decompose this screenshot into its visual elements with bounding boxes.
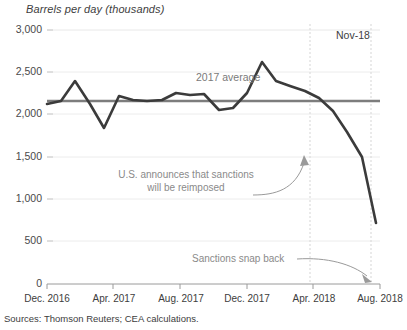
x-tick-label: Apr. 2017 — [82, 293, 146, 304]
y-tick-label: 1,000 — [0, 192, 42, 204]
x-tick-label: Apr. 2018 — [282, 293, 346, 304]
x-tick-label: Dec. 2016 — [15, 293, 79, 304]
annotation-line: will be reimposed — [112, 181, 260, 194]
y-tick-label: 3,000 — [0, 23, 42, 35]
annotation-line: Sanctions snap back — [192, 252, 284, 265]
y-tick-label: 2,000 — [0, 107, 42, 119]
x-tick-label: Aug. 2017 — [149, 293, 213, 304]
x-tick-label: Aug. 2018 — [348, 293, 407, 304]
y-axis-ticks — [47, 30, 53, 241]
marker-label-nov-18: Nov-18 — [336, 29, 370, 41]
marker-lines — [310, 24, 371, 284]
x-tick-label: Dec. 2017 — [215, 293, 279, 304]
annotation-sanctions-announced: U.S. announces that sanctions will be re… — [112, 168, 260, 194]
y-tick-label: 0 — [0, 277, 42, 289]
x-axis-line — [47, 284, 380, 289]
annotation-arrow-snap-back — [297, 259, 372, 283]
source-note: Sources: Thomson Reuters; CEA calculatio… — [4, 313, 199, 324]
annotation-snap-back: Sanctions snap back — [192, 252, 284, 265]
annotation-line: U.S. announces that sanctions — [112, 168, 260, 181]
y-tick-label: 2,500 — [0, 65, 42, 77]
y-tick-label: 1,500 — [0, 150, 42, 162]
series-label-2017-average: 2017 average — [196, 71, 260, 83]
y-tick-label: 500 — [0, 234, 42, 246]
annotation-arrow-sanctions-announced — [253, 155, 309, 195]
gridlines — [47, 30, 380, 241]
